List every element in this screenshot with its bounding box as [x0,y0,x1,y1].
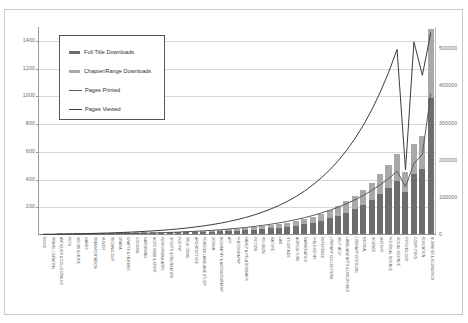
x-label-slot: RELIGION [258,236,266,312]
x-axis-tick-label: RELIGION [260,237,263,254]
x-label-slot: MATHEMATICS [300,236,308,312]
x-label-slot: LAW [275,236,283,312]
x-axis-tick-label: COMPUTERS [412,237,415,259]
x-label-slot: PERFORMING ARTS [157,236,165,312]
x-label-slot: SELF-HELP [334,236,342,312]
x-axis-tick-label: AGRICULTURE [294,237,297,262]
x-axis-tick-label: NATURE [269,237,272,251]
x-axis-tick-label: MEDICAL [362,237,365,252]
x-label-slot: FAMILY & RELATIONSHIPS [241,236,249,312]
x-axis-tick-label: SELF-HELP [336,237,339,256]
x-label-slot: HUMOR [98,236,106,312]
x-axis-tick-label: SCIENCE [370,237,373,252]
x-axis-tick-label: LITERARY COLLECTIONS [328,237,331,279]
legend-item: Pages Viewed [69,100,164,119]
x-axis-tick-label: PHILOSOPHY [311,237,314,260]
x-label-slot: ANTIQUES & COLLECTIBLES [56,236,64,312]
x-label-slot: DESIGN [207,236,215,312]
legend-item-label: Pages Viewed [85,107,121,113]
x-axis-tick-label: ART [227,237,230,244]
x-label-slot: MUSIC [39,236,47,312]
x-label-slot: EDUCATION [418,236,426,312]
x-axis-tick-label: DRAMA [117,237,120,250]
x-axis-tick-label: BODY, MIND & SPIRIT [151,237,154,273]
x-label-slot: GAMES [81,236,89,312]
x-axis-tick-label: HUMOR [100,237,103,250]
x-label-slot: COOKING [132,236,140,312]
x-label-slot: TRANSPORTATION [90,236,98,312]
legend-item-label: Full Title Downloads [84,50,134,56]
x-label-slot: ARCHITECTURE [191,236,199,312]
x-axis-tick-label: STUDY AIDS [286,237,289,258]
x-axis-tick-label: MATHEMATICS [303,237,306,262]
legend-bar-swatch [69,51,80,54]
x-label-slot: FICTION [250,236,258,312]
x-label-slot: PHILOSOPHY [309,236,317,312]
x-label-slot: ART [224,236,232,312]
x-axis-tick-label: TECHNOLOGY [109,237,112,261]
x-label-slot: BODY, MIND & SPIRIT [148,236,156,312]
x-label-slot: SOCIAL SCIENCE [393,236,401,312]
x-label-slot: LANGUAGE ARTS & DISCIPLINES [342,236,350,312]
x-label-slot: DRAMA [115,236,123,312]
x-axis-tick-label: LITERARY CRITICISM [353,237,356,273]
x-label-slot: POLITICAL SCIENCE [384,236,392,312]
y-axis-right-tick-label: 400000 [436,83,457,88]
chart-frame: 200400600800100012001400 010000020000030… [4,9,463,315]
legend-item-label: Chapter/Range Downloads [84,69,151,75]
x-axis-tick-label: COOKING [134,237,137,253]
legend-item: Chapter/Range Downloads [69,62,164,81]
x-axis-tick-label: HOUSE & HOME [75,237,78,264]
x-label-slot: FOREIGN LANGUAGE STUDY [199,236,207,312]
x-axis-tick-label: FOREIGN LANGUAGE STUDY [202,237,205,286]
chart-legend: Full Title DownloadsChapter/Range Downlo… [59,35,165,120]
x-label-slot: SPORTS & RECREATION [165,236,173,312]
x-label-slot: SCIENCE [367,236,375,312]
x-axis-tick-label: ARCHITECTURE [193,237,196,264]
x-axis-tick-label: GAMES [84,237,87,250]
x-label-slot: GARDENING [140,236,148,312]
legend-item: Pages Printed [69,81,164,100]
x-label-slot: REFERENCE [317,236,325,312]
x-label-slot: TECHNOLOGY [106,236,114,312]
x-axis-tick-label: LANGUAGE ARTS & DISCIPLINES [345,237,348,292]
x-axis-tick-label: PHOTOGRAPHY [235,237,238,264]
legend-item-label: Pages Printed [85,88,120,94]
x-label-slot: COMPUTERS [410,236,418,312]
x-axis-tick-label: BUSINESS & ECONOMICS [429,237,432,280]
y-axis-right-tick-label: 0 [436,232,442,237]
x-axis-tick-label: SPORTS & RECREATION [168,237,171,278]
x-axis-tick-label: PETS [67,237,70,246]
x-axis-tick-label: PERFORMING ARTS [159,237,162,270]
x-axis-tick-label: LAW [277,237,280,244]
x-axis-tick-label: ANTIQUES & COLLECTIBLES [58,237,61,285]
x-axis-tick-label: HISTORY [378,237,381,252]
x-label-slot: AGRICULTURE [292,236,300,312]
x-axis-tick-label: PSYCHOLOGY [404,237,407,261]
x-axis-tick-label: POLITICAL SCIENCE [387,237,390,271]
x-label-slot: PHOTOGRAPHY [233,236,241,312]
x-label-slot: BUSINESS & ECONOMICS [426,236,434,312]
x-label-slot: HISTORY [376,236,384,312]
x-label-slot: POETRY [174,236,182,312]
x-label-slot: BIOGRAPHY & AUTOBIOGRAPHY [216,236,224,312]
x-axis-tick-label: BIOGRAPHY & AUTOBIOGRAPHY [218,237,221,292]
x-label-slot: MEDICAL [359,236,367,312]
x-axis-tick-label: POETRY [176,237,179,251]
x-label-slot: PSYCHOLOGY [401,236,409,312]
y-axis-right-tick-label: 100000 [436,195,457,200]
x-axis-tick-label: TRANSPORTATION [92,237,95,268]
x-axis-tick-label: FAMILY & RELATIONSHIPS [244,237,247,281]
y-axis-right-tick-label: 300000 [436,121,457,126]
legend-line-swatch [69,109,82,110]
legend-bar-swatch [69,70,80,73]
x-label-slot: TRUE CRIME [182,236,190,312]
x-label-slot: LITERARY COLLECTIONS [325,236,333,312]
x-axis-tick-label: FICTION [252,237,255,251]
x-label-slot: PETS [64,236,72,312]
x-axis-labels: MUSICTRAVEL / GENERALANTIQUES & COLLECTI… [39,236,435,312]
chart-screenshot: 200400600800100012001400 010000020000030… [0,0,468,323]
x-axis-tick-label: REFERENCE [319,237,322,258]
x-axis-tick-label: EDUCATION [420,237,423,257]
legend-line-swatch [69,90,82,91]
